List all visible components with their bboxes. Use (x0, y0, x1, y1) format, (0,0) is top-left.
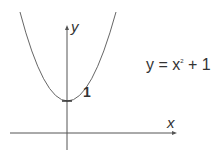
y-axis-label: y (71, 18, 79, 35)
equation-label: y = x2 + 1 (146, 56, 211, 74)
diagram-canvas (0, 0, 212, 156)
parabola-curve (20, 12, 116, 101)
equation-exponent: 2 (180, 58, 183, 64)
y-axis-arrow-icon (65, 25, 69, 30)
x-axis-label: x (167, 114, 175, 131)
equation-lhs: y = x (146, 56, 180, 73)
y-intercept-label: 1 (83, 84, 91, 100)
x-axis-arrow-icon (172, 131, 177, 135)
equation-rhs: + 1 (188, 56, 211, 73)
